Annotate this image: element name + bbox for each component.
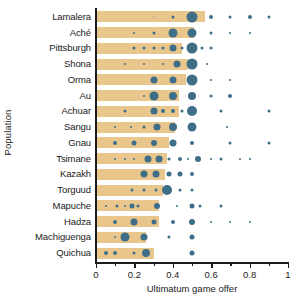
data-point xyxy=(190,141,194,145)
data-point xyxy=(154,203,160,209)
data-point xyxy=(267,141,270,144)
data-point xyxy=(187,74,198,85)
data-point xyxy=(133,158,135,160)
y-axis-tick-label: Quichua xyxy=(56,247,91,259)
y-axis-tick-label: Torguud xyxy=(57,184,91,196)
x-axis-title-text: Ultimatum game offer xyxy=(147,283,238,294)
data-point xyxy=(178,172,183,177)
chart-row xyxy=(96,88,288,104)
y-axis-tick-label: Hadza xyxy=(64,216,91,228)
data-point xyxy=(267,15,270,18)
data-point xyxy=(179,189,182,192)
data-point xyxy=(191,189,194,192)
data-point xyxy=(154,124,161,131)
data-point xyxy=(188,92,196,100)
data-point xyxy=(124,63,126,65)
data-point xyxy=(249,32,251,34)
chart-row xyxy=(96,230,288,246)
y-axis-tick-label: Mapuche xyxy=(53,200,91,212)
data-point xyxy=(133,252,136,255)
y-axis-title-text: Population xyxy=(3,110,14,156)
chart-row xyxy=(96,151,288,167)
data-point xyxy=(144,155,151,162)
data-point xyxy=(153,16,154,17)
data-point xyxy=(229,32,231,34)
data-point xyxy=(210,79,212,81)
data-point xyxy=(152,47,155,50)
data-point xyxy=(105,205,107,207)
data-point xyxy=(195,156,201,162)
data-point xyxy=(171,109,175,113)
data-point xyxy=(229,141,232,144)
y-axis-tick-label: Lamalera xyxy=(52,11,91,23)
y-axis-tick-label: Sangu xyxy=(64,121,91,133)
y-axis-tick-label: Orma xyxy=(68,74,91,86)
data-point xyxy=(131,218,138,225)
y-axis-tick-label: Machiguenga xyxy=(35,231,91,243)
data-point xyxy=(200,47,203,50)
data-point xyxy=(248,15,252,19)
data-point xyxy=(113,251,117,255)
x-axis-major-tick xyxy=(288,263,289,268)
y-axis-tick-label: Pittsburgh xyxy=(49,42,91,54)
data-point xyxy=(133,32,135,34)
data-point xyxy=(176,205,178,207)
data-point xyxy=(154,189,157,192)
data-point xyxy=(137,204,140,207)
x-axis-major-tick xyxy=(96,263,97,268)
chart-row xyxy=(96,135,288,151)
chart-row xyxy=(96,72,288,88)
chart-row xyxy=(96,198,288,214)
x-axis-title: Ultimatum game offer xyxy=(96,283,288,294)
data-point xyxy=(156,155,163,162)
data-point xyxy=(143,63,145,65)
data-point xyxy=(169,123,177,131)
data-point xyxy=(130,203,135,208)
y-axis-tick-label: Aché xyxy=(70,27,91,39)
y-axis-tick-label: Kazakh xyxy=(60,168,91,180)
chart-row xyxy=(96,182,288,198)
data-point xyxy=(168,28,177,37)
data-point xyxy=(123,110,126,113)
data-point xyxy=(143,47,146,50)
chart-row xyxy=(96,56,288,72)
data-point xyxy=(152,171,159,178)
data-point xyxy=(142,249,150,257)
chart-row xyxy=(96,245,288,261)
data-point xyxy=(130,126,132,128)
chart-row xyxy=(96,167,288,183)
x-axis-minor-tick xyxy=(115,263,116,266)
x-axis-minor-tick xyxy=(192,263,193,266)
y-axis-title: Population xyxy=(0,0,16,265)
chart-row xyxy=(96,119,288,135)
data-point xyxy=(228,94,232,98)
x-axis-minor-tick xyxy=(230,263,231,266)
x-axis-minor-tick xyxy=(154,263,155,266)
data-point xyxy=(116,204,119,207)
data-point xyxy=(226,126,228,128)
chart-row xyxy=(96,104,288,120)
data-point xyxy=(239,158,241,160)
data-point xyxy=(149,91,158,100)
data-point xyxy=(187,158,189,160)
data-point xyxy=(188,123,197,132)
data-point xyxy=(167,157,170,160)
data-point xyxy=(169,45,176,52)
chart-row xyxy=(96,41,288,57)
data-point xyxy=(229,221,231,223)
data-point xyxy=(104,251,108,255)
data-point xyxy=(150,108,157,115)
data-point xyxy=(152,31,155,34)
data-point xyxy=(210,221,212,223)
data-point xyxy=(190,235,195,240)
data-point xyxy=(143,95,145,97)
chart-row xyxy=(96,9,288,25)
data-point xyxy=(219,110,222,113)
x-axis-major-tick xyxy=(134,263,135,268)
data-point xyxy=(190,172,194,176)
x-axis-minor-tick xyxy=(269,263,270,266)
data-point xyxy=(162,63,164,65)
data-point xyxy=(120,233,129,242)
bar xyxy=(96,106,179,117)
y-axis-tick-label: Shona xyxy=(64,58,91,70)
